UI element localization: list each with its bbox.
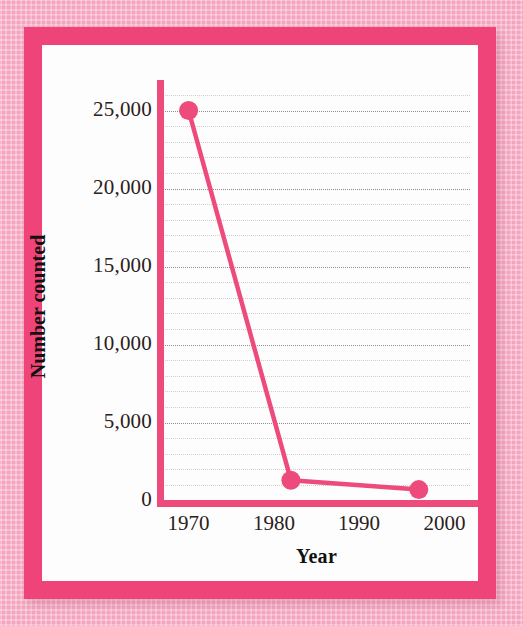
figure-white-plate xyxy=(42,45,478,581)
